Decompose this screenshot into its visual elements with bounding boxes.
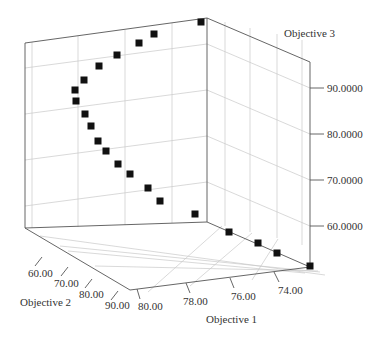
x-axis-ticks — [137, 272, 279, 299]
data-point — [96, 63, 103, 70]
data-point — [198, 19, 205, 26]
data-point — [73, 98, 80, 105]
data-point — [307, 263, 314, 270]
data-point — [157, 198, 164, 205]
y-tick-80: 80.00 — [79, 288, 104, 300]
data-point — [114, 52, 121, 59]
axis-box — [25, 18, 310, 290]
data-point — [226, 229, 233, 236]
x-tick-74: 74.00 — [278, 284, 303, 296]
data-point — [255, 240, 262, 247]
z-axis-ticks — [310, 88, 324, 226]
data-point — [127, 171, 134, 178]
data-point — [103, 148, 110, 155]
scatter-3d-chart: 90.0000 80.0000 70.0000 60.0000 Objectiv… — [0, 0, 378, 341]
data-point — [151, 31, 158, 38]
x-tick-80: 80.00 — [138, 300, 163, 312]
data-point — [82, 111, 89, 118]
z-tick-90: 90.0000 — [327, 82, 363, 94]
z-tick-60: 60.0000 — [327, 220, 363, 232]
data-point — [136, 40, 143, 47]
y-tick-60: 60.00 — [28, 267, 53, 279]
data-point — [95, 138, 102, 145]
y-tick-70: 70.00 — [54, 277, 79, 289]
data-point — [192, 211, 199, 218]
z-tick-70: 70.0000 — [327, 174, 363, 186]
x-tick-76: 76.00 — [231, 290, 256, 302]
data-point — [88, 123, 95, 130]
data-point — [274, 250, 281, 257]
y-tick-90: 90.00 — [105, 299, 130, 311]
z-axis-tick-labels: 90.0000 80.0000 70.0000 60.0000 — [327, 82, 363, 232]
data-point — [115, 161, 122, 168]
z-axis-label: Objective 3 — [284, 27, 336, 39]
y-axis-label: Objective 2 — [20, 296, 71, 308]
data-point — [81, 77, 88, 84]
data-point — [72, 87, 79, 94]
x-axis-label: Objective 1 — [206, 313, 257, 325]
z-tick-80: 80.0000 — [327, 128, 363, 140]
data-point — [145, 185, 152, 192]
x-axis-tick-labels: 80.00 78.00 76.00 74.00 — [138, 284, 303, 312]
x-tick-78: 78.00 — [183, 295, 208, 307]
